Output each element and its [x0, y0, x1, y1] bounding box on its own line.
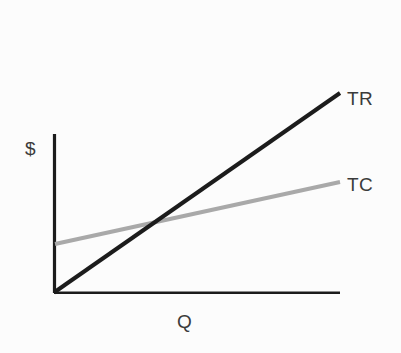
- y-axis-label: $: [25, 139, 36, 158]
- chart-canvas: $ Q TR TC: [0, 0, 401, 353]
- x-axis-label: Q: [177, 312, 192, 331]
- total-revenue-label: TR: [347, 89, 373, 108]
- chart-plot-area: [0, 0, 401, 353]
- total-cost-label: TC: [347, 175, 373, 194]
